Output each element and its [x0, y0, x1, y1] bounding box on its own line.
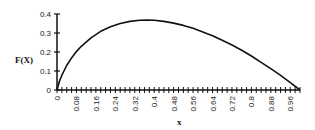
y-axis-title: F(X) [15, 55, 33, 65]
x-tick-label: 0 [53, 95, 62, 100]
y-tick-label: 0.1 [40, 67, 52, 76]
x-tick-label: 0.88 [267, 95, 276, 111]
x-axis-title: x [177, 117, 182, 127]
x-tick-label: 0.24 [111, 95, 120, 111]
x-tick-label: 0.72 [228, 95, 237, 111]
x-tick-label: 0.4 [150, 95, 159, 107]
y-tick-label: 0.4 [40, 10, 52, 19]
line-chart: 00.10.20.30.4 00.080.160.240.320.40.480.… [0, 0, 315, 130]
y-tick-label: 0.2 [40, 48, 52, 57]
x-tick-label: 0.08 [72, 95, 81, 111]
y-tick-label: 0.3 [40, 29, 52, 38]
y-tick-label: 0 [47, 86, 52, 95]
x-tick-label: 0.8 [247, 95, 256, 107]
x-tick-label: 0.48 [170, 95, 179, 111]
x-tick-label: 0.64 [209, 95, 218, 111]
data-series-line [57, 20, 300, 90]
x-axis: 00.080.160.240.320.40.480.560.640.720.80… [53, 87, 300, 112]
x-tick-label: 0.96 [286, 95, 295, 111]
y-axis: 00.10.20.30.4 [40, 10, 60, 95]
x-tick-label: 0.56 [189, 95, 198, 111]
x-tick-label: 0.16 [92, 95, 101, 111]
x-tick-label: 0.32 [131, 95, 140, 111]
